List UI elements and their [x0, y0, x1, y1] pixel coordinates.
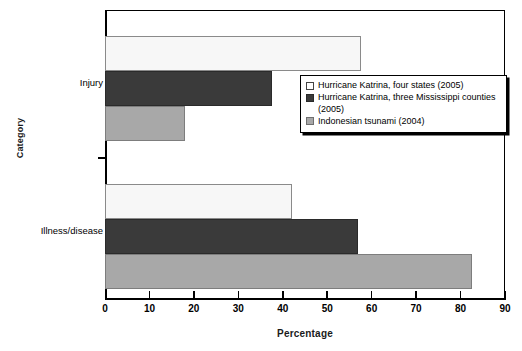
legend-item-0: Hurricane Katrina, four states (2005)	[306, 80, 501, 92]
x-axis-title: Percentage	[105, 328, 505, 339]
x-tick-label-30: 30	[218, 303, 258, 314]
x-tick-label-20: 20	[174, 303, 214, 314]
category-axis-labels: Injury Illness/disease	[6, 0, 103, 351]
x-tick-20	[193, 291, 195, 300]
x-tick-label-90: 90	[485, 303, 522, 314]
x-tick-30	[238, 291, 240, 300]
x-tick-label-10: 10	[129, 303, 169, 314]
x-tick-label-80: 80	[441, 303, 481, 314]
x-tick-10	[149, 291, 151, 300]
x-tick-50	[326, 291, 328, 300]
x-tick-label-0: 0	[85, 303, 125, 314]
x-tick-60	[371, 291, 373, 300]
x-tick-80	[460, 291, 462, 300]
plot-area	[105, 10, 505, 300]
bar-illness-disease-series-1	[105, 219, 358, 254]
legend-label-2: Indonesian tsunami (2004)	[318, 116, 501, 128]
legend-label-0: Hurricane Katrina, four states (2005)	[318, 80, 501, 92]
bar-illness-disease-series-0	[105, 184, 292, 219]
white-swatch-icon	[306, 82, 314, 90]
legend-label-1: Hurricane Katrina, three Mississippi cou…	[318, 92, 501, 115]
x-tick-label-60: 60	[352, 303, 392, 314]
legend-item-2: Indonesian tsunami (2004)	[306, 116, 501, 128]
bar-injury-series-1	[105, 71, 272, 106]
category-label-illness-disease: Illness/disease	[11, 225, 103, 236]
x-tick-70	[415, 291, 417, 300]
x-tick-label-50: 50	[307, 303, 347, 314]
legend: Hurricane Katrina, four states (2005) Hu…	[300, 75, 507, 133]
dark-swatch-icon	[306, 94, 314, 102]
x-tick-label-70: 70	[396, 303, 436, 314]
category-label-injury: Injury	[11, 77, 103, 88]
x-tick-40	[282, 291, 284, 300]
bar-injury-series-2	[105, 106, 185, 141]
gray-swatch-icon	[306, 117, 314, 125]
x-tick-label-40: 40	[263, 303, 303, 314]
bar-illness-disease-series-2	[105, 254, 472, 289]
bar-injury-series-0	[105, 36, 361, 71]
legend-item-1: Hurricane Katrina, three Mississippi cou…	[306, 92, 501, 115]
bar-chart: Category Injury Illness/disease 01020304…	[0, 0, 522, 351]
x-tick-90	[504, 291, 506, 300]
category-separator-tick	[98, 157, 105, 159]
